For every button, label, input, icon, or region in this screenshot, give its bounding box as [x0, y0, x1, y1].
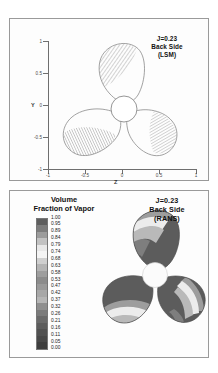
- colorbar-tick-label: 0.68: [51, 257, 91, 262]
- colorbar-tick-label: 0.42: [51, 291, 91, 296]
- colorbar-tick-label: 0.89: [51, 229, 91, 234]
- annotation-line: (LSM): [136, 51, 198, 59]
- colorbar-tick-label: 0.16: [51, 326, 91, 331]
- annotation-line: (RANS): [132, 214, 202, 223]
- colorbar-title-line: Volume: [18, 195, 110, 204]
- x-axis-label: Z: [114, 179, 117, 185]
- y-axis-label: Y: [31, 102, 35, 108]
- panel-rans: Volume Fraction of Vapor 1.000.950.890.8…: [9, 190, 209, 358]
- colorbar-body: 1.000.950.890.840.790.740.680.630.580.53…: [18, 218, 110, 350]
- annotation-line: Back Side: [136, 43, 198, 51]
- colorbar-tick-label: 0.00: [51, 346, 91, 351]
- colorbar-tick-label: 0.32: [51, 305, 91, 310]
- annotation-lsm: J=0.23 Back Side (LSM): [136, 35, 198, 59]
- annotation-line: J=0.23: [132, 196, 202, 205]
- colorbar-tick-label: 0.53: [51, 278, 91, 283]
- colorbar-tick-label: 0.47: [51, 284, 91, 289]
- plot-area-rans: Volume Fraction of Vapor 1.000.950.890.8…: [10, 191, 208, 357]
- plot-area-lsm: 1 0.5 0 -0.5 -1 -1 -0.5 0 0.5 1 Y Z: [10, 19, 208, 180]
- panel-lsm: 1 0.5 0 -0.5 -1 -1 -0.5 0 0.5 1 Y Z: [9, 18, 209, 181]
- colorbar-title-line: Fraction of Vapor: [18, 204, 110, 213]
- annotation-line: Back Side: [132, 205, 202, 214]
- y-tick-label: 1: [28, 39, 42, 44]
- colorbar-tick-label: 1.00: [51, 216, 91, 221]
- colorbar-tick-label: 0.37: [51, 298, 91, 303]
- colorbar-swatches: [36, 218, 48, 350]
- colorbar-tick-labels: 1.000.950.890.840.790.740.680.630.580.53…: [51, 216, 91, 352]
- y-tick-label: -1: [28, 167, 42, 172]
- annotation-line: J=0.23: [136, 35, 198, 43]
- colorbar-legend: Volume Fraction of Vapor 1.000.950.890.8…: [18, 195, 110, 350]
- colorbar-tick-label: 0.11: [51, 333, 91, 338]
- colorbar-tick-label: 0.74: [51, 250, 91, 255]
- colorbar-tick-label: 0.58: [51, 271, 91, 276]
- colorbar-tick-label: 0.26: [51, 312, 91, 317]
- colorbar-tick-label: 0.95: [51, 222, 91, 227]
- colorbar-tick-label: 0.84: [51, 236, 91, 241]
- annotation-rans: J=0.23 Back Side (RANS): [132, 196, 202, 223]
- y-tick-label: 0.5: [28, 71, 42, 76]
- colorbar-tick-label: 0.21: [51, 319, 91, 324]
- colorbar-tick-label: 0.05: [51, 340, 91, 345]
- propeller-rans: [102, 205, 206, 345]
- colorbar-tick-label: 0.79: [51, 243, 91, 248]
- colorbar-title: Volume Fraction of Vapor: [18, 195, 110, 214]
- colorbar-tick-label: 0.63: [51, 264, 91, 269]
- colorbar-swatch: [37, 342, 47, 349]
- y-tick-label: -0.5: [28, 135, 42, 140]
